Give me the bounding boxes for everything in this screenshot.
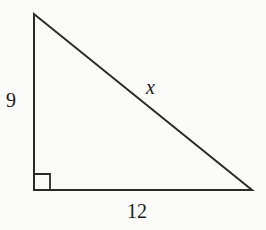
right-angle-marker bbox=[34, 174, 50, 190]
triangle-diagram: 9 12 x bbox=[0, 0, 266, 230]
vertical-leg-label: 9 bbox=[6, 89, 16, 111]
triangle-shape bbox=[34, 14, 252, 190]
horizontal-leg-label: 12 bbox=[127, 200, 147, 222]
hypotenuse-label: x bbox=[145, 76, 155, 98]
triangle-figure: 9 12 x bbox=[0, 0, 266, 230]
